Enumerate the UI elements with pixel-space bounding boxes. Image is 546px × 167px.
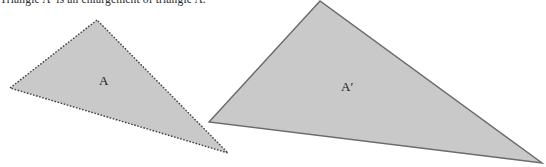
triangle-a-prime-shape — [209, 1, 542, 163]
triangle-a-label: A — [99, 74, 108, 87]
triangle-enlargement-figure: Triangle A′ is an enlargement of triangl… — [0, 0, 546, 167]
triangle-a-shape — [10, 20, 228, 153]
triangles-canvas — [0, 0, 546, 167]
triangle-a-prime-label: A′ — [341, 80, 353, 93]
